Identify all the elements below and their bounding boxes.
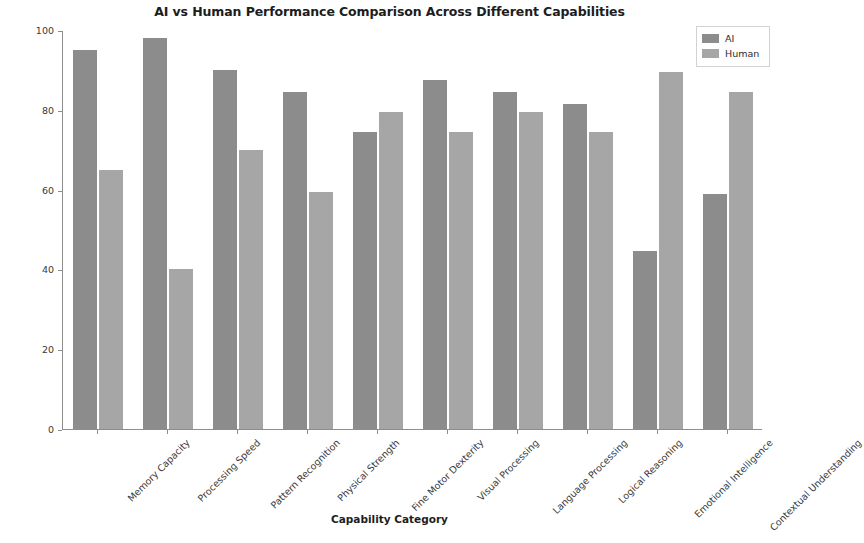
bar-ai-1 xyxy=(143,38,167,429)
y-tick-label: 0 xyxy=(28,424,54,435)
y-tick-mark xyxy=(58,350,62,351)
x-tick-mark xyxy=(97,430,98,434)
bar-ai-5 xyxy=(423,80,447,429)
bar-ai-0 xyxy=(73,50,97,429)
chart-title: AI vs Human Performance Comparison Acros… xyxy=(0,4,779,19)
x-tick-label-8: Emotional Intelligence xyxy=(692,437,775,520)
bar-human-9 xyxy=(729,92,753,429)
x-tick-label-4: Fine Motor Dexterity xyxy=(409,437,485,513)
y-tick-mark xyxy=(58,270,62,271)
legend-item-ai[interactable]: AI xyxy=(702,31,764,46)
legend-swatch-icon xyxy=(702,49,719,58)
x-tick-label-2: Pattern Recognition xyxy=(268,437,342,511)
y-tick-label: 80 xyxy=(28,105,54,116)
bar-human-3 xyxy=(309,192,333,429)
x-tick-mark xyxy=(307,430,308,434)
legend-label: Human xyxy=(725,48,759,59)
bar-ai-8 xyxy=(633,251,657,429)
x-tick-label-5: Visual Processing xyxy=(475,437,541,503)
plot-area xyxy=(62,31,762,430)
bar-human-2 xyxy=(239,150,263,429)
x-tick-mark xyxy=(517,430,518,434)
x-tick-label-3: Physical Strength xyxy=(335,437,401,503)
bar-ai-6 xyxy=(493,92,517,429)
x-tick-mark xyxy=(167,430,168,434)
x-tick-mark xyxy=(727,430,728,434)
y-tick-label: 100 xyxy=(28,25,54,36)
y-tick-mark xyxy=(58,191,62,192)
bar-human-7 xyxy=(589,132,613,429)
bar-ai-9 xyxy=(703,194,727,429)
bar-human-8 xyxy=(659,72,683,429)
x-tick-mark xyxy=(587,430,588,434)
bar-ai-3 xyxy=(283,92,307,429)
bar-human-0 xyxy=(99,170,123,429)
x-tick-mark xyxy=(377,430,378,434)
bar-human-6 xyxy=(519,112,543,429)
y-tick-label: 40 xyxy=(28,264,54,275)
x-axis-label: Capability Category xyxy=(0,513,779,525)
y-tick-mark xyxy=(58,111,62,112)
y-tick-label: 20 xyxy=(28,344,54,355)
x-tick-mark xyxy=(447,430,448,434)
chart-legend: AIHuman xyxy=(696,26,770,67)
y-tick-label: 60 xyxy=(28,185,54,196)
legend-swatch-icon xyxy=(702,34,719,43)
bar-human-1 xyxy=(169,269,193,429)
y-tick-mark xyxy=(58,31,62,32)
bars-layer xyxy=(63,31,762,429)
bar-ai-4 xyxy=(353,132,377,429)
legend-item-human[interactable]: Human xyxy=(702,46,764,61)
x-tick-label-6: Language Processing xyxy=(550,437,629,516)
x-tick-label-0: Memory Capacity xyxy=(125,437,192,504)
bar-ai-2 xyxy=(213,70,237,429)
bar-human-4 xyxy=(379,112,403,429)
bar-human-5 xyxy=(449,132,473,429)
bar-ai-7 xyxy=(563,104,587,429)
y-tick-mark xyxy=(58,430,62,431)
x-tick-mark xyxy=(237,430,238,434)
x-tick-mark xyxy=(657,430,658,434)
legend-label: AI xyxy=(725,33,734,44)
x-tick-label-1: Processing Speed xyxy=(195,437,262,504)
x-tick-label-9: Contextual Understanding xyxy=(768,437,864,533)
